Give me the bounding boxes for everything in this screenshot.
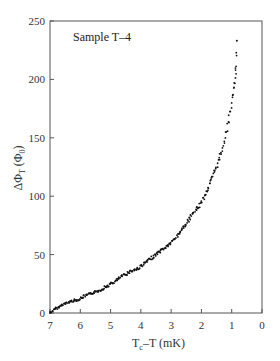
x-tick-label: 0 xyxy=(259,319,265,331)
y-tick-label: 50 xyxy=(34,249,46,261)
data-point xyxy=(235,52,237,54)
data-point xyxy=(56,307,58,309)
data-point xyxy=(142,265,144,267)
data-point xyxy=(217,162,219,164)
data-point xyxy=(215,167,217,169)
x-tick-label: 7 xyxy=(47,319,53,331)
x-axis-title: Tc–T (mK) xyxy=(132,336,185,352)
data-point xyxy=(176,234,178,236)
data-point xyxy=(136,267,138,269)
x-axis-ticks: 76543210 xyxy=(47,309,265,331)
data-point xyxy=(134,268,136,270)
data-point xyxy=(210,179,212,181)
data-point xyxy=(212,176,214,178)
data-point xyxy=(234,82,236,84)
data-point xyxy=(170,242,172,244)
data-point xyxy=(222,145,224,147)
data-point xyxy=(183,227,185,229)
data-point xyxy=(224,137,226,139)
data-point xyxy=(98,291,100,293)
data-point xyxy=(226,123,228,125)
data-point xyxy=(203,198,205,200)
data-point xyxy=(232,96,234,98)
data-points xyxy=(49,40,238,314)
data-point xyxy=(179,231,181,233)
data-point xyxy=(119,277,121,279)
data-point xyxy=(58,307,60,309)
data-point xyxy=(221,150,223,152)
data-point xyxy=(194,211,196,213)
data-point xyxy=(108,286,110,288)
sample-annotation: Sample T–4 xyxy=(73,30,131,44)
data-point xyxy=(224,142,226,144)
data-point xyxy=(121,275,123,277)
data-point xyxy=(209,182,211,184)
data-point xyxy=(129,270,131,272)
data-point xyxy=(236,55,238,57)
data-point xyxy=(153,255,155,257)
x-tick-label: 5 xyxy=(108,319,114,331)
data-point xyxy=(235,69,237,71)
data-point xyxy=(222,147,224,149)
data-point xyxy=(65,302,67,304)
data-point xyxy=(235,73,237,75)
x-tick-label: 1 xyxy=(229,319,235,331)
data-point xyxy=(236,40,238,42)
data-point xyxy=(165,247,167,249)
data-point xyxy=(225,131,227,133)
data-point xyxy=(129,272,131,274)
data-point xyxy=(218,157,220,159)
data-point xyxy=(132,270,134,272)
data-point xyxy=(190,215,192,217)
data-point xyxy=(167,246,169,248)
y-tick-label: 100 xyxy=(29,190,46,202)
data-point xyxy=(177,236,179,238)
chart: 050100150200250 76543210 Sample T–4 Tc–T… xyxy=(0,0,280,361)
data-point xyxy=(228,114,230,116)
data-point xyxy=(188,221,190,223)
data-point xyxy=(235,65,237,67)
data-point xyxy=(185,224,187,226)
y-tick-label: 250 xyxy=(29,15,46,27)
data-point xyxy=(143,264,145,266)
data-point xyxy=(126,274,128,276)
data-point xyxy=(217,166,219,168)
data-point xyxy=(229,111,231,113)
y-tick-label: 150 xyxy=(29,132,46,144)
data-point xyxy=(103,288,105,290)
data-point xyxy=(223,140,225,142)
x-tick-label: 4 xyxy=(138,319,144,331)
data-point xyxy=(189,219,191,221)
data-point xyxy=(202,197,204,199)
data-point xyxy=(181,227,183,229)
data-point xyxy=(175,237,177,239)
data-point xyxy=(62,304,64,306)
data-point xyxy=(196,209,198,211)
data-point xyxy=(52,310,54,312)
data-point xyxy=(179,233,181,235)
data-point xyxy=(188,217,190,219)
data-point xyxy=(82,297,84,299)
x-tick-label: 2 xyxy=(199,319,205,331)
data-point xyxy=(232,94,234,96)
data-point xyxy=(219,159,221,161)
data-point xyxy=(207,187,209,189)
data-point xyxy=(83,294,85,296)
data-point xyxy=(153,257,155,259)
data-point xyxy=(186,222,188,224)
data-point xyxy=(113,282,115,284)
data-point xyxy=(155,255,157,257)
data-point xyxy=(228,122,230,124)
data-point xyxy=(199,206,201,208)
data-point xyxy=(139,267,141,269)
data-point xyxy=(220,152,222,154)
data-point xyxy=(79,299,81,301)
data-point xyxy=(235,67,237,69)
x-tick-label: 3 xyxy=(168,319,174,331)
data-point xyxy=(227,130,229,132)
data-point xyxy=(231,107,233,109)
x-tick-label: 6 xyxy=(78,319,84,331)
data-point xyxy=(159,252,161,254)
plot-frame xyxy=(50,21,262,313)
data-point xyxy=(207,189,209,191)
